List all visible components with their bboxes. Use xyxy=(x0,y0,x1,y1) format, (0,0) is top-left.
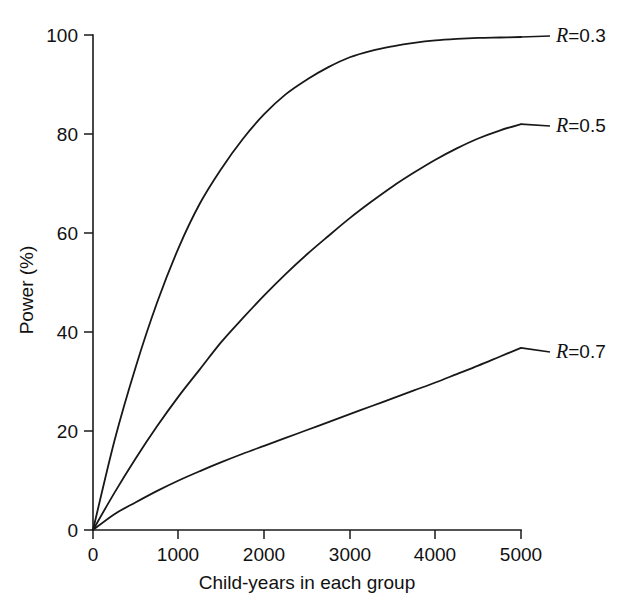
figure-root: 0 20 40 60 80 100 0 1000 2000 3000 4000 … xyxy=(0,0,638,595)
y-tick-label-20: 20 xyxy=(57,421,78,442)
series-value-r-0-5: =0.5 xyxy=(568,115,606,136)
y-tick-label-60: 60 xyxy=(57,223,78,244)
x-tick-label-1000: 1000 xyxy=(157,544,199,565)
y-tick-label-0: 0 xyxy=(67,520,78,541)
x-tick-label-5000: 5000 xyxy=(500,544,542,565)
x-axis-title: Child-years in each group xyxy=(199,572,416,593)
curve-r-0-5 xyxy=(93,124,521,530)
x-tick-label-3000: 3000 xyxy=(329,544,371,565)
y-axis-ticks xyxy=(84,35,93,530)
power-curves-chart: 0 20 40 60 80 100 0 1000 2000 3000 4000 … xyxy=(0,0,638,595)
series-annotation-r-0-3: R=0.3 xyxy=(555,24,606,46)
series-annotation-r-0-7: R=0.7 xyxy=(555,340,606,362)
series-value-r-0-7: =0.7 xyxy=(568,341,606,362)
series-value-r-0-3: =0.3 xyxy=(568,25,606,46)
series-var-r-0-3: R xyxy=(555,24,568,46)
y-tick-label-40: 40 xyxy=(57,322,78,343)
x-axis-ticks xyxy=(93,530,521,539)
x-tick-label-0: 0 xyxy=(88,544,99,565)
y-axis-title: Power (%) xyxy=(16,246,37,335)
series-var-r-0-5: R xyxy=(555,114,568,136)
y-tick-label-80: 80 xyxy=(57,124,78,145)
x-tick-label-4000: 4000 xyxy=(414,544,456,565)
series-var-r-0-7: R xyxy=(555,340,568,362)
series-annotation-r-0-5: R=0.5 xyxy=(555,114,606,136)
leader-line-r-0-7 xyxy=(521,348,550,352)
curve-r-0-3 xyxy=(93,37,521,530)
leader-line-r-0-5 xyxy=(521,124,550,126)
y-tick-label-100: 100 xyxy=(46,25,78,46)
curve-r-0-7 xyxy=(93,348,521,530)
x-tick-label-2000: 2000 xyxy=(243,544,285,565)
leader-line-r-0-3 xyxy=(521,36,550,37)
